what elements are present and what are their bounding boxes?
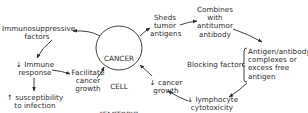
node-blocking-factors: Blocking factors [187, 61, 243, 69]
node-decreased-cancer-growth: ↓ cancer growth [149, 79, 183, 95]
node-decreased-lymphocyte-cytotoxicity: ↓ lymphocyte cytotoxicity [187, 96, 237, 112]
arrow-to-immune-response [37, 40, 52, 58]
node-antigen-antibody-complexes: Antigen/antibody complexes or excess fre… [248, 48, 308, 81]
center-line-3: "FACTORY" [96, 110, 142, 113]
arrow-to-sheds [140, 28, 150, 36]
node-increased-susceptibility: ↑ susceptibility to infection [4, 94, 66, 110]
node-immunosuppressive-factors: Immunosuppressive factors [2, 25, 72, 41]
node-facilitate-cancer-growth: Facilitate cancer growth [68, 69, 108, 94]
cancer-cell-factory-diagram: CANCER CELL "FACTORY" Immunosuppressive … [0, 0, 308, 113]
center-line-1: CANCER [96, 54, 142, 63]
arrow-to-complexes [233, 29, 262, 42]
node-sheds-tumor-antigens: Sheds tumor antigens [150, 14, 180, 39]
node-combines-with-antibody: Combines with antitumor antibody [194, 6, 236, 39]
node-decreased-immune-response: ↓ Immune response [10, 61, 60, 77]
